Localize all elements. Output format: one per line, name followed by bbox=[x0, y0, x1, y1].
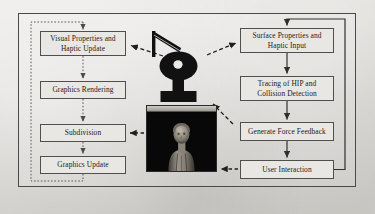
block-subdivision-label: Subdivision bbox=[65, 128, 101, 137]
block-tracing-hip[interactable]: Tracing of HIP and Collision Detection bbox=[240, 76, 334, 101]
haptic-device-silhouette bbox=[146, 27, 218, 107]
3d-render-window[interactable] bbox=[146, 105, 217, 172]
device-neck-icon bbox=[173, 77, 185, 93]
block-subdivision[interactable]: Subdivision bbox=[40, 124, 126, 142]
block-user-interaction[interactable]: User Interaction bbox=[240, 160, 334, 179]
figure-diagram: Visual Properties and Haptic Update Grap… bbox=[0, 0, 375, 214]
block-visual-properties-line1: Visual Properties and bbox=[50, 34, 115, 43]
device-base-icon bbox=[161, 91, 197, 102]
block-user-interaction-label: User Interaction bbox=[262, 165, 311, 174]
block-generate-force-feedback-label: Generate Force Feedback bbox=[248, 127, 326, 136]
block-surface-properties-line2: Haptic Input bbox=[252, 41, 321, 50]
block-graphics-rendering[interactable]: Graphics Rendering bbox=[40, 81, 126, 99]
block-visual-properties[interactable]: Visual Properties and Haptic Update bbox=[40, 31, 126, 56]
block-tracing-hip-line2: Collision Detection bbox=[257, 89, 317, 98]
block-graphics-update[interactable]: Graphics Update bbox=[40, 156, 126, 174]
block-graphics-update-label: Graphics Update bbox=[57, 160, 108, 169]
block-tracing-hip-line1: Tracing of HIP and bbox=[257, 79, 317, 88]
device-arm-highlight bbox=[154, 35, 182, 52]
bust-highlight bbox=[176, 127, 182, 134]
bust-eye-right bbox=[183, 132, 185, 135]
block-surface-properties-line1: Surface Properties and bbox=[252, 31, 321, 40]
block-graphics-rendering-label: Graphics Rendering bbox=[52, 85, 113, 94]
block-visual-properties-line2: Haptic Update bbox=[50, 44, 115, 53]
block-generate-force-feedback[interactable]: Generate Force Feedback bbox=[240, 122, 334, 141]
bust-render-image bbox=[147, 112, 216, 172]
device-torus-hole bbox=[173, 60, 182, 68]
block-surface-properties[interactable]: Surface Properties and Haptic Input bbox=[240, 28, 334, 53]
